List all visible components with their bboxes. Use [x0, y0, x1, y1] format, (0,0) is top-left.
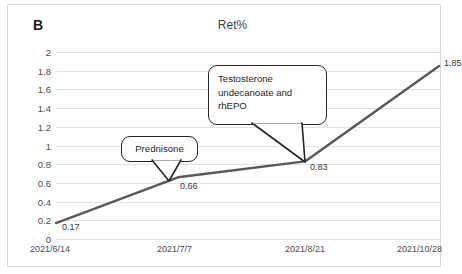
y-axis-tick-label: 0.6 — [11, 177, 51, 188]
y-axis-tick-label: 2 — [11, 47, 51, 58]
x-axis-tick-label: 2021/7/7 — [157, 244, 192, 254]
y-axis-tick-label: 1.4 — [11, 103, 51, 114]
y-axis-tick-label: 1.8 — [11, 65, 51, 76]
testosterone-callout-tail — [248, 120, 318, 168]
annotation-text: Testosterone undecanoate and rhEPO — [218, 72, 326, 113]
y-axis-tick-label: 1.2 — [11, 121, 51, 132]
y-axis-tick-label: 0.4 — [11, 196, 51, 207]
prednisone-callout-tail — [148, 157, 188, 183]
x-axis-tick-label: 2021/10/28 — [397, 244, 442, 254]
annotation-callout-testosterone[interactable]: Testosterone undecanoate and rhEPO — [208, 65, 327, 125]
y-axis-tick-label: 1 — [11, 140, 51, 151]
data-label: 1.85 — [444, 58, 462, 68]
data-label: 0.17 — [62, 222, 80, 232]
x-axis-tick-label: 2021/6/14 — [30, 244, 70, 254]
y-axis-tick-label: 0.8 — [11, 159, 51, 170]
y-axis-tick-label: 1.6 — [11, 84, 51, 95]
chart-title: Ret% — [8, 18, 457, 32]
x-axis-tick-label: 2021/8/21 — [285, 244, 325, 254]
y-axis-tick-label: 0.2 — [11, 215, 51, 226]
x-axis-line — [56, 239, 441, 240]
chart-container: B Ret% 2 1.8 1.6 1.4 1.2 1 0.8 0.6 0.4 0… — [7, 4, 441, 267]
annotation-text: Prednisone — [135, 142, 184, 156]
y-axis-tick-label: 0 — [11, 234, 51, 245]
